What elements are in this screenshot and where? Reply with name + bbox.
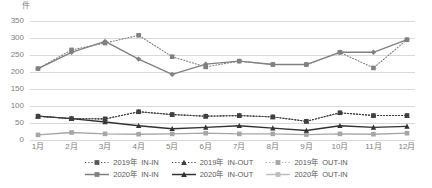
data-point bbox=[271, 132, 276, 137]
data-point bbox=[170, 54, 175, 59]
series-line bbox=[38, 116, 407, 130]
legend-marker-square-icon bbox=[265, 170, 291, 179]
chart-legend: 2019年 IN-IN2019年 IN-OUT2019年 OUT-IN 2020… bbox=[0, 158, 432, 179]
legend-item-label: 2020年 OUT-IN bbox=[294, 170, 347, 179]
data-point bbox=[237, 132, 242, 137]
data-point bbox=[203, 131, 208, 136]
legend-item-label: 2019年 OUT-IN bbox=[294, 158, 347, 167]
legend-item-label: 2019年 IN-OUT bbox=[200, 158, 254, 167]
legend-marker-square-icon bbox=[84, 158, 110, 167]
x-axis-tick-4: 4月 bbox=[124, 142, 154, 152]
y-axis-tick-350: 350 bbox=[0, 17, 24, 25]
data-point bbox=[371, 50, 376, 55]
y-axis-tick-250: 250 bbox=[0, 51, 24, 59]
y-axis-unit-label: 件 bbox=[22, 1, 30, 11]
x-axis-tick-12: 12月 bbox=[392, 142, 422, 152]
data-point bbox=[136, 33, 141, 38]
legend-item-label: 2020年 IN-IN bbox=[113, 170, 158, 179]
legend-item-2020年-IN-IN[interactable]: 2020年 IN-IN bbox=[84, 170, 158, 179]
gridline-0 bbox=[30, 140, 415, 141]
x-axis-tick-1: 1月 bbox=[23, 142, 53, 152]
x-axis-tick-8: 8月 bbox=[258, 142, 288, 152]
y-axis-tick-50: 50 bbox=[0, 119, 24, 127]
x-axis-tick-3: 3月 bbox=[90, 142, 120, 152]
legend-marker-triangle-icon bbox=[171, 158, 197, 167]
data-point bbox=[136, 56, 141, 61]
x-axis-tick-5: 5月 bbox=[157, 142, 187, 152]
legend-row-2020: 2020年 IN-IN2020年 IN-OUT2020年 OUT-IN bbox=[78, 170, 353, 179]
series-2020年-OUT-IN bbox=[35, 37, 409, 77]
line-chart: 件 050100150200250300350 1月2月3月4月5月6月7月8月… bbox=[0, 0, 432, 188]
series-2019年-IN-OUT bbox=[35, 109, 409, 124]
data-point bbox=[338, 132, 343, 137]
x-axis-tick-10: 10月 bbox=[325, 142, 355, 152]
y-axis-tick-150: 150 bbox=[0, 85, 24, 93]
data-point bbox=[169, 72, 174, 77]
data-point bbox=[405, 131, 410, 136]
legend-item-2020年-IN-OUT[interactable]: 2020年 IN-OUT bbox=[171, 170, 254, 179]
legend-row-2019: 2019年 IN-IN2019年 IN-OUT2019年 OUT-IN bbox=[78, 158, 353, 167]
legend-marker-triangle-icon bbox=[171, 170, 197, 179]
y-axis-tick-300: 300 bbox=[0, 34, 24, 42]
data-point bbox=[371, 66, 376, 71]
data-point bbox=[103, 132, 108, 137]
y-axis-tick-0: 0 bbox=[0, 136, 24, 144]
series-line bbox=[38, 112, 407, 122]
series-2020年-IN-IN bbox=[36, 130, 410, 137]
x-axis-tick-9: 9月 bbox=[291, 142, 321, 152]
legend-item-label: 2019年 IN-IN bbox=[113, 158, 158, 167]
legend-item-2019年-IN-IN[interactable]: 2019年 IN-IN bbox=[84, 158, 158, 167]
data-point bbox=[36, 133, 41, 138]
data-point bbox=[170, 132, 175, 137]
x-axis-tick-2: 2月 bbox=[57, 142, 87, 152]
y-axis-tick-100: 100 bbox=[0, 102, 24, 110]
series-line bbox=[38, 133, 407, 135]
series-2020年-IN-OUT bbox=[35, 113, 409, 132]
legend-marker-square-icon bbox=[265, 158, 291, 167]
plot-area bbox=[30, 21, 415, 140]
y-axis-tick-200: 200 bbox=[0, 68, 24, 76]
legend-item-2019年-IN-OUT[interactable]: 2019年 IN-OUT bbox=[171, 158, 254, 167]
data-point bbox=[69, 130, 74, 135]
data-point bbox=[136, 132, 141, 137]
series-line bbox=[38, 40, 407, 75]
legend-item-label: 2020年 IN-OUT bbox=[200, 170, 254, 179]
x-axis-tick-11: 11月 bbox=[358, 142, 388, 152]
legend-marker-square-icon bbox=[84, 170, 110, 179]
x-axis-tick-7: 7月 bbox=[224, 142, 254, 152]
data-point bbox=[304, 132, 309, 137]
legend-item-2020年-OUT-IN[interactable]: 2020年 OUT-IN bbox=[265, 170, 347, 179]
data-point bbox=[371, 132, 376, 137]
legend-item-2019年-OUT-IN[interactable]: 2019年 OUT-IN bbox=[265, 158, 347, 167]
x-axis-tick-6: 6月 bbox=[191, 142, 221, 152]
series-layer bbox=[30, 21, 415, 140]
series-2019年-IN-IN bbox=[36, 109, 410, 123]
